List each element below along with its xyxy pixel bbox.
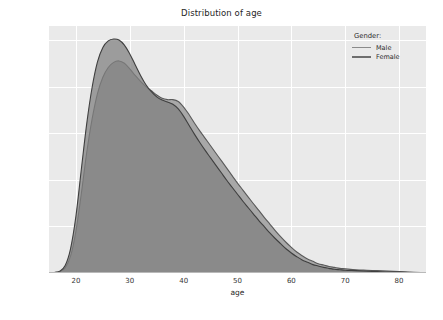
legend-label-male: Male: [376, 44, 391, 52]
figure: Distribution of age 0.000.010.020.030.04…: [0, 0, 443, 320]
density-curves: [49, 26, 426, 273]
legend-label-female: Female: [376, 53, 400, 61]
legend-item-male[interactable]: Male: [352, 43, 400, 52]
legend-title: Gender:: [352, 32, 400, 40]
plot-area: [49, 26, 426, 273]
gridline-horizontal: [49, 273, 426, 274]
page-title: Distribution of age: [0, 8, 443, 18]
x-axis-label: age: [49, 288, 426, 297]
x-tick-label: 40: [164, 277, 204, 285]
legend-item-female[interactable]: Female: [352, 52, 400, 61]
x-tick-label: 80: [379, 277, 419, 285]
x-tick-label: 50: [218, 277, 258, 285]
x-tick-label: 30: [110, 277, 150, 285]
x-tick-label: 70: [325, 277, 365, 285]
legend: Gender: Male Female: [352, 32, 400, 61]
x-tick-label: 60: [271, 277, 311, 285]
x-tick-label: 20: [56, 277, 96, 285]
legend-line-male-icon: [352, 47, 371, 48]
x-axis-spine: [49, 272, 426, 273]
series-female: [49, 39, 421, 273]
legend-line-female-icon: [352, 56, 371, 58]
series-fill-female: [49, 39, 421, 273]
